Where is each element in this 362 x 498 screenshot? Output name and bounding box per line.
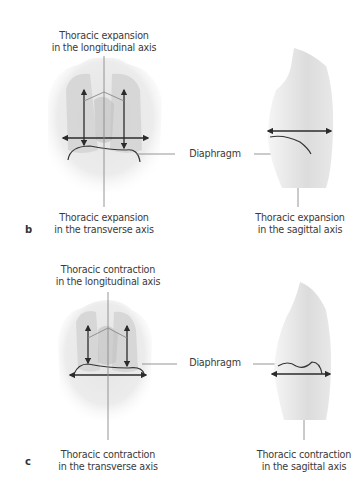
panel-c-diaphragm-label: Diaphragm [178,357,252,369]
label-line-1: Thoracic expansion [240,212,360,224]
panel-b-letter: b [25,224,32,235]
panel-b-front-torso [48,58,162,192]
panel-b-diaphragm-label: Diaphragm [178,148,252,160]
panel-c-transverse-label: Thoracic contraction in the transverse a… [44,449,172,473]
panel-c-sagittal-label: Thoracic contraction in the sagittal axi… [240,449,362,473]
panel-c-side-torso [274,282,331,420]
label-line-1: Thoracic expansion [44,212,164,224]
label-line-2: in the transverse axis [44,461,172,473]
label-line-2: in the transverse axis [44,224,164,236]
label-line-2: in the longitudinal axis [44,42,164,54]
label-line-2: in the sagittal axis [240,461,362,473]
panel-c-longitudinal-label: Thoracic contraction in the longitudinal… [44,264,172,288]
thorax-diagram-artwork [0,0,362,498]
label-line-1: Thoracic contraction [240,449,362,461]
panel-b-longitudinal-label: Thoracic expansion in the longitudinal a… [44,30,164,54]
panel-b-side-torso [268,48,333,188]
label-line-1: Thoracic contraction [44,449,172,461]
panel-c-letter: c [25,456,31,467]
label-line-2: in the longitudinal axis [44,276,172,288]
label-line-1: Thoracic expansion [44,30,164,42]
panel-b-transverse-label: Thoracic expansion in the transverse axi… [44,212,164,236]
panel-c-front-torso [58,300,152,420]
label-line-2: in the sagittal axis [240,224,360,236]
label-line-1: Thoracic contraction [44,264,172,276]
panel-b-sagittal-label: Thoracic expansion in the sagittal axis [240,212,360,236]
